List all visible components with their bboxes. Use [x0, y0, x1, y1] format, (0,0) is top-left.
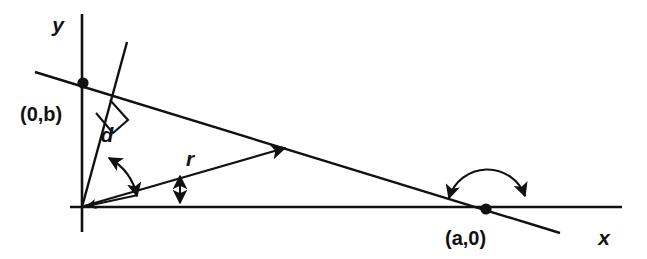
perpendicular-distance-label: d: [101, 123, 115, 146]
x-intercept-label: (a,0): [445, 227, 486, 249]
y-axis-label: y: [51, 13, 65, 36]
y-intercept-label-text: (0,b): [20, 103, 62, 125]
ray-r: [84, 148, 285, 206]
ray-label: r: [186, 147, 196, 170]
point-y-intercept: [77, 77, 88, 88]
figure-canvas: y x (0,b) (a,0) d r: [0, 0, 647, 259]
y-intercept-label: (0,b): [20, 103, 62, 125]
point-x-intercept: [480, 203, 491, 214]
geometry-figure: y x (0,b) (a,0) d r: [0, 0, 647, 259]
origin-angle-arc: [109, 158, 137, 196]
x-axis-label: x: [597, 226, 611, 249]
x-intercept-label-text: (a,0): [445, 227, 486, 249]
intercept-angle-arc: [449, 169, 525, 198]
